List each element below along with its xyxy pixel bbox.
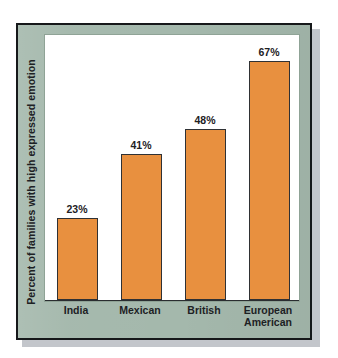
bar-mexican: 41%	[121, 35, 162, 300]
x-axis-label-british: British	[172, 304, 236, 316]
bar-british: 48%	[185, 35, 226, 300]
bar-rect	[57, 218, 98, 300]
x-axis-tick-labels: IndiaMexicanBritishEuropeanAmerican	[44, 304, 300, 338]
bar-european-american: 67%	[249, 35, 290, 300]
figure-frame: Percent of families with high expressed …	[16, 23, 312, 340]
x-axis-label-india: India	[44, 304, 108, 316]
x-axis-label-european-american: EuropeanAmerican	[236, 304, 300, 328]
plot-area: 23%41%48%67%	[44, 34, 300, 302]
bar-rect	[121, 154, 162, 300]
chart-figure: Percent of families with high expressed …	[0, 0, 338, 358]
bar-value-label: 23%	[66, 203, 87, 215]
bar-india: 23%	[57, 35, 98, 300]
x-axis-label-line: Mexican	[119, 304, 160, 316]
x-axis-baseline	[45, 300, 299, 301]
bar-rect	[249, 61, 290, 300]
x-axis-label-line: British	[187, 304, 220, 316]
x-axis-label-line: India	[64, 304, 89, 316]
y-axis-title-text: Percent of families with high expressed …	[25, 59, 37, 305]
x-axis-label-line: European	[244, 304, 292, 316]
y-axis-title: Percent of families with high expressed …	[18, 25, 44, 338]
x-axis-label-mexican: Mexican	[108, 304, 172, 316]
bar-value-label: 48%	[194, 114, 215, 126]
bar-series: 23%41%48%67%	[45, 35, 299, 300]
x-axis-label-line: American	[236, 316, 300, 328]
bar-rect	[185, 129, 226, 300]
bar-value-label: 67%	[258, 46, 279, 58]
bar-value-label: 41%	[130, 139, 151, 151]
